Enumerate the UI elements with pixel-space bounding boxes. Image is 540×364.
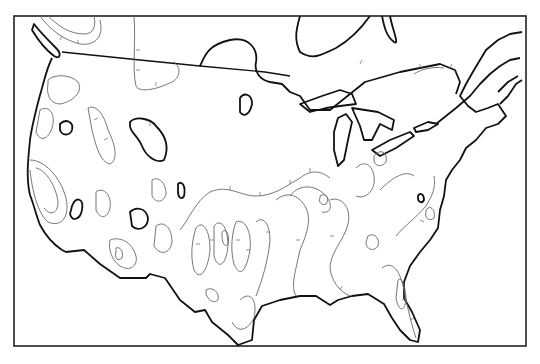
lake-ontario: [414, 122, 438, 132]
vancouver-island: [32, 24, 60, 57]
isoline-map: [0, 0, 540, 364]
lake-michigan: [334, 114, 352, 166]
lake-huron: [352, 108, 394, 140]
map-frame: [14, 16, 526, 346]
canada-coast: [200, 39, 460, 110]
us-coastline: [28, 32, 522, 345]
hudson-bay-shore: [296, 16, 370, 56]
nova-scotia: [498, 76, 522, 104]
isolines: [30, 16, 444, 338]
james-bay-shore: [382, 16, 396, 43]
